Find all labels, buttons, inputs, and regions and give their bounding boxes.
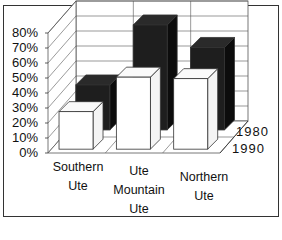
x-category-label: SouthernUte	[43, 158, 113, 196]
y-tick-label: 0%	[2, 145, 38, 160]
y-tick-label: 40%	[2, 85, 38, 100]
y-tick-label: 60%	[2, 55, 38, 70]
y-tick-label: 70%	[2, 40, 38, 55]
y-tick-label: 50%	[2, 70, 38, 85]
y-tick-label: 80%	[2, 25, 38, 40]
x-category-label: NorthernUte	[169, 168, 239, 206]
y-tick-label: 20%	[2, 115, 38, 130]
depth-label-1980: 1980	[236, 124, 269, 139]
depth-label-1990: 1990	[232, 141, 265, 156]
x-category-label: UteMountainUte	[104, 162, 174, 219]
y-tick-label: 10%	[2, 130, 38, 145]
y-tick-label: 30%	[2, 100, 38, 115]
